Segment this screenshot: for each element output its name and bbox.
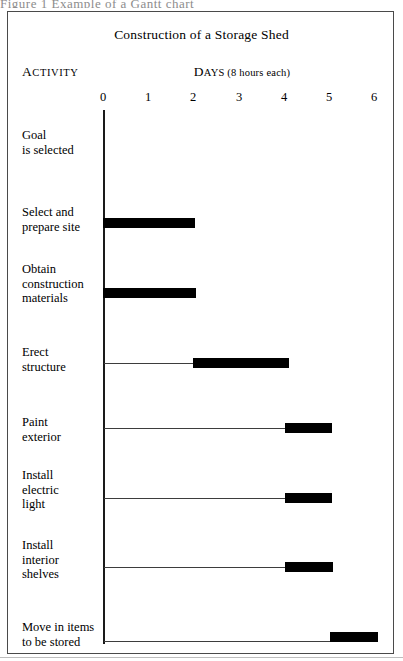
x-axis-tick-0: 0 — [91, 90, 115, 105]
gantt-bar — [285, 493, 332, 503]
days-header-rest: AYS (8 hours each) — [204, 67, 290, 78]
gantt-bar — [330, 632, 378, 642]
task-leader-line — [104, 641, 331, 642]
task-leader-line — [104, 428, 286, 429]
activity-label: Paint exterior — [22, 415, 104, 444]
activity-label: Erect structure — [22, 345, 104, 374]
gantt-bar — [285, 423, 332, 433]
gantt-bar — [285, 562, 333, 572]
activity-label: Install electric light — [22, 468, 104, 512]
x-axis-tick-6: 6 — [362, 90, 386, 105]
task-leader-line — [104, 567, 286, 568]
x-axis-tick-4: 4 — [272, 90, 296, 105]
activity-label: Obtain construction materials — [22, 262, 104, 306]
x-axis-tick-2: 2 — [181, 90, 205, 105]
task-leader-line — [104, 498, 286, 499]
days-header-lead: D — [194, 64, 204, 79]
x-axis-tick-1: 1 — [136, 90, 160, 105]
gantt-bar — [103, 218, 195, 228]
gantt-bar — [193, 358, 289, 368]
activity-label: Install interior shelves — [22, 538, 104, 582]
figure-caption-cutoff: Figure 1 Example of a Gantt chart — [0, 0, 403, 8]
days-axis-header: DAYS (8 hours each) — [103, 64, 381, 80]
activity-header-lead: A — [22, 64, 32, 79]
gantt-bar — [103, 288, 196, 298]
activity-column-header: ACTIVITY — [22, 64, 79, 80]
activity-label: Goal is selected — [22, 128, 104, 157]
x-axis-tick-5: 5 — [317, 90, 341, 105]
chart-title: Construction of a Storage Shed — [0, 27, 403, 43]
x-axis-tick-3: 3 — [227, 90, 251, 105]
page-bottom-rule — [0, 657, 403, 658]
activity-label: Move in items to be stored — [22, 620, 104, 649]
activity-label: Select and prepare site — [22, 205, 104, 234]
task-leader-line — [104, 363, 194, 364]
activity-header-rest: CTIVITY — [32, 67, 78, 78]
